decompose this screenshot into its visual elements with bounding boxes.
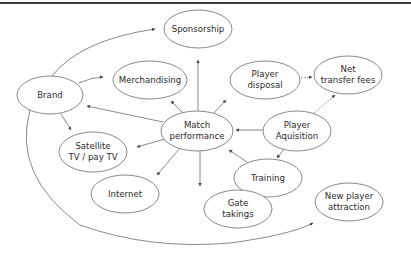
edge-brand-to-satellite bbox=[61, 114, 71, 130]
label-line: disposal bbox=[247, 80, 282, 91]
label-line: New player bbox=[325, 191, 374, 202]
label-line: Match bbox=[169, 120, 224, 131]
label-sponsorship: Sponsorship bbox=[172, 24, 225, 35]
label-player-aquisition: Player Aquisition bbox=[276, 120, 318, 142]
label-line: Player bbox=[247, 69, 282, 80]
label-line: Net bbox=[321, 64, 376, 75]
label-line: Merchandising bbox=[119, 75, 182, 86]
label-line: Player bbox=[276, 120, 318, 131]
label-line: attraction bbox=[325, 202, 374, 213]
label-net-transfer-fees: Net transfer fees bbox=[321, 64, 376, 86]
label-player-disposal: Player disposal bbox=[247, 69, 282, 91]
edge-match-to-internet bbox=[157, 148, 180, 175]
label-line: Gate bbox=[222, 198, 253, 209]
edge-match-to-player-disposal bbox=[214, 100, 226, 113]
label-training: Training bbox=[251, 173, 285, 184]
edge-disposal-to-net-transfer bbox=[301, 77, 312, 78]
edge-training-to-match bbox=[229, 150, 247, 162]
label-merchandising: Merchandising bbox=[119, 75, 182, 86]
edge-match-to-satellite bbox=[137, 139, 165, 147]
label-new-player-attraction: New player attraction bbox=[325, 191, 374, 213]
label-line: transfer fees bbox=[321, 75, 376, 86]
label-line: Training bbox=[251, 173, 285, 184]
label-brand: Brand bbox=[37, 90, 63, 101]
edge-match-to-brand bbox=[87, 106, 163, 122]
label-line: Sponsorship bbox=[172, 24, 225, 35]
edge-match-to-merchandising bbox=[171, 101, 183, 113]
edge-brand-to-merchandising bbox=[79, 77, 103, 83]
label-satellite-tv: Satellite TV / pay TV bbox=[68, 141, 117, 163]
edge-aquisition-to-net-transfer bbox=[314, 95, 335, 113]
label-internet: Internet bbox=[108, 189, 142, 200]
edge-aquisition-to-training bbox=[277, 149, 284, 158]
label-line: takings bbox=[222, 209, 253, 220]
label-line: TV / pay TV bbox=[68, 152, 117, 163]
label-line: Satellite bbox=[68, 141, 117, 152]
label-line: Aquisition bbox=[276, 131, 318, 142]
label-line: Internet bbox=[108, 189, 142, 200]
label-match-performance: Match performance bbox=[169, 120, 224, 142]
label-gate-takings: Gate takings bbox=[222, 198, 253, 220]
label-line: Brand bbox=[37, 90, 63, 101]
label-line: performance bbox=[169, 131, 224, 142]
